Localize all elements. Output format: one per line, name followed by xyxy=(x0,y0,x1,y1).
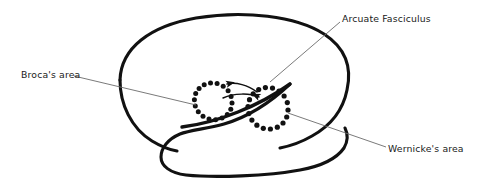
cerebrum-outline xyxy=(120,15,349,148)
leader-line-brocas-area xyxy=(74,76,196,105)
label-wernickes-area: Wernicke's area xyxy=(388,143,464,154)
label-arcuate-fasciculus: Arcuate Fasciculus xyxy=(342,13,431,24)
arrow-toward-brocas-area xyxy=(227,83,257,92)
wernickes-area-dotted-region xyxy=(245,85,290,132)
label-brocas-area: Broca's area xyxy=(21,69,80,80)
leader-line-arcuate-fasciculus xyxy=(270,22,340,82)
brocas-area-dotted-region xyxy=(192,81,235,123)
brain-language-areas-diagram: Arcuate Fasciculus Broca's area Wernicke… xyxy=(0,0,477,180)
